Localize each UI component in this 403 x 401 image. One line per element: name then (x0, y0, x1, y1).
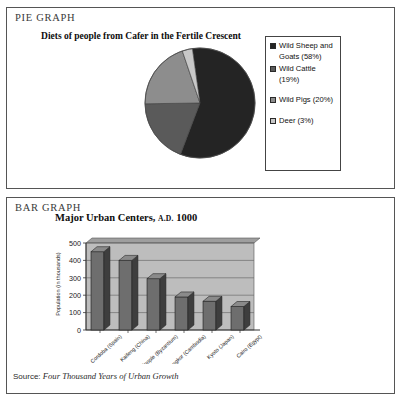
x-tick-label: Cairo (Egypt) (235, 333, 263, 359)
legend-item: Wild Cattle (19%) (270, 64, 337, 85)
bar-side (160, 274, 166, 330)
pie-chart-title: Diets of people from Cafer in the Fertil… (16, 31, 266, 41)
y-tick-label: 500 (69, 239, 81, 248)
pie-chart (144, 47, 256, 159)
y-tick-label: 0 (77, 326, 81, 335)
legend-item-label: Wild Cattle (19%) (279, 64, 337, 85)
bar (203, 301, 216, 330)
bar (231, 307, 244, 330)
legend-item-label: Wild Sheep and Goats (58%) (279, 41, 337, 62)
y-tick-label: 400 (69, 256, 81, 265)
legend-item: Wild Pigs (20%) (270, 95, 337, 106)
bar-side (104, 247, 110, 330)
legend-swatch-icon (270, 97, 276, 103)
bar-chart-title: Major Urban Centers, A.D. 1000 (55, 212, 197, 223)
legend-item-label: Wild Pigs (20%) (279, 95, 337, 106)
y-tick-label: 100 (69, 308, 81, 317)
legend-item: Deer (3%) (270, 116, 337, 127)
source-prefix: Source: (13, 372, 41, 381)
bar-side (188, 292, 194, 330)
bar-title-main: Major Urban Centers, (55, 212, 155, 223)
plot-top-face (86, 238, 260, 243)
legend-swatch-icon (270, 43, 276, 49)
pie-chart-svg (144, 47, 256, 159)
x-tick-label: Cordoba (Spain) (89, 333, 123, 364)
legend-item-label: Deer (3%) (279, 116, 337, 127)
source-title: Four Thousand Years of Urban Growth (43, 371, 179, 381)
legend-swatch-icon (270, 66, 276, 72)
bar-title-year: 1000 (176, 212, 197, 223)
bar (175, 297, 188, 330)
y-tick-label: 200 (69, 291, 81, 300)
x-tick-label: Kyoto (Japan) (206, 333, 235, 360)
y-axis-label: Population (in thousands) (55, 252, 61, 316)
pie-legend: Wild Sheep and Goats (58%)Wild Cattle (1… (265, 36, 341, 171)
source-note: Source: Four Thousand Years of Urban Gro… (13, 371, 179, 381)
plot-background (86, 243, 254, 330)
bar-chart: 0100200300400500Population (in thousands… (52, 234, 267, 364)
bar (147, 279, 160, 330)
bar-chart-svg: 0100200300400500Population (in thousands… (52, 234, 267, 364)
worksheet-page: PIE GRAPH Diets of people from Cafer in … (0, 0, 403, 401)
pie-panel-label: PIE GRAPH (15, 12, 75, 23)
bar (119, 260, 132, 330)
bar-side (132, 255, 138, 330)
bar-title-era: A.D. (158, 214, 174, 223)
y-tick-label: 300 (69, 274, 81, 283)
bar-side (216, 296, 222, 330)
legend-item: Wild Sheep and Goats (58%) (270, 41, 337, 62)
legend-swatch-icon (270, 118, 276, 124)
bar (91, 252, 104, 330)
